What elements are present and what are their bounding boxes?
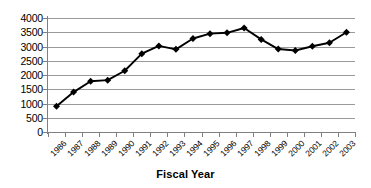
y-axis-tick-label: 3500 <box>1 27 43 38</box>
y-axis-tick-label: 1500 <box>1 84 43 95</box>
x-axis-tick <box>236 133 237 137</box>
x-axis-tick-label: 1995 <box>202 139 221 158</box>
x-axis-tick-label: 1988 <box>83 139 102 158</box>
x-axis-tick <box>304 133 305 137</box>
y-axis-tick-label: 500 <box>1 113 43 124</box>
x-axis-tick-label: 1993 <box>168 139 187 158</box>
x-axis-tick <box>150 133 151 137</box>
gridline <box>48 32 355 33</box>
gridline <box>48 75 355 76</box>
x-axis-tick <box>65 133 66 137</box>
x-axis-tick <box>321 133 322 137</box>
x-axis-tick-label: 2000 <box>287 139 306 158</box>
x-axis-tick <box>133 133 134 137</box>
x-axis-tick <box>202 133 203 137</box>
y-axis-tick-labels: 05001000150020002500300035004000 <box>0 0 43 188</box>
x-axis-tick <box>355 133 356 137</box>
x-axis-tick-label: 2002 <box>321 139 340 158</box>
x-axis-tick <box>82 133 83 137</box>
y-axis-tick-label: 4000 <box>1 13 43 24</box>
chart-container: 05001000150020002500300035004000 1986198… <box>0 0 371 188</box>
x-axis-tick <box>116 133 117 137</box>
x-axis-tick <box>253 133 254 137</box>
x-axis-title: Fiscal Year <box>0 168 371 180</box>
x-axis-tick-label: 2001 <box>304 139 323 158</box>
x-axis-tick <box>338 133 339 137</box>
x-axis-tick <box>99 133 100 137</box>
x-axis-tick-label: 1998 <box>253 139 272 158</box>
x-axis-tick-label: 1990 <box>117 139 136 158</box>
plot-area <box>48 18 355 132</box>
gridline <box>48 61 355 62</box>
x-axis-tick <box>287 133 288 137</box>
gridline <box>48 18 355 19</box>
y-axis-tick-label: 2500 <box>1 56 43 67</box>
x-axis-tick-label: 1997 <box>236 139 255 158</box>
gridline <box>48 89 355 90</box>
x-axis-tick <box>270 133 271 137</box>
x-axis-tick-label: 2003 <box>338 139 357 158</box>
y-axis-tick-label: 1000 <box>1 98 43 109</box>
gridline <box>48 47 355 48</box>
gridline <box>48 118 355 119</box>
x-axis-tick-label: 1999 <box>270 139 289 158</box>
y-axis-tick-label: 3000 <box>1 41 43 52</box>
y-axis-tick-label: 2000 <box>1 70 43 81</box>
x-axis-tick-label: 1996 <box>219 139 238 158</box>
x-axis-tick <box>219 133 220 137</box>
y-axis-tick-label: 0 <box>1 127 43 138</box>
x-axis-tick-label: 1992 <box>151 139 170 158</box>
x-axis-tick-label: 1994 <box>185 139 204 158</box>
x-axis-tick <box>184 133 185 137</box>
gridline <box>48 104 355 105</box>
x-axis-tick-label: 1989 <box>100 139 119 158</box>
x-axis-tick-label: 1987 <box>65 139 84 158</box>
x-axis-tick <box>167 133 168 137</box>
x-axis-tick <box>48 133 49 137</box>
x-axis-tick-label: 1986 <box>48 139 67 158</box>
x-axis-tick-label: 1991 <box>134 139 153 158</box>
